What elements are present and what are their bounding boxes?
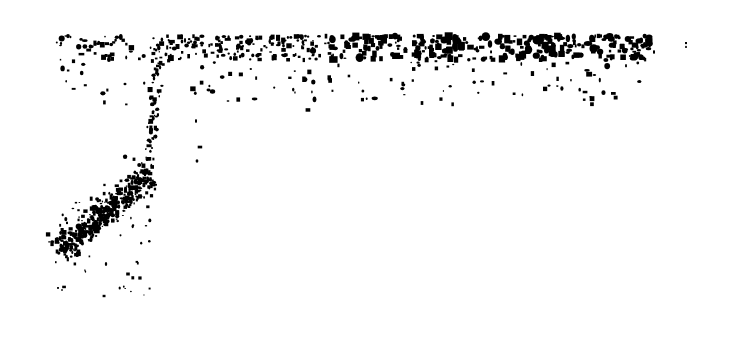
data-point [152, 82, 155, 84]
data-point [136, 199, 138, 202]
data-point [108, 192, 110, 195]
data-point [64, 217, 67, 221]
data-point [144, 172, 146, 176]
data-point [520, 62, 522, 66]
data-point [435, 60, 438, 62]
data-point [84, 84, 87, 86]
data-point [115, 196, 118, 199]
data-point [61, 289, 63, 290]
data-point [87, 218, 89, 221]
data-point [180, 34, 182, 38]
data-point [60, 243, 63, 246]
data-point [116, 219, 118, 220]
data-point [59, 224, 61, 227]
data-point [221, 54, 226, 57]
data-point [523, 35, 527, 39]
data-point [117, 191, 121, 195]
data-point [85, 228, 87, 230]
data-point [129, 190, 131, 193]
data-point [90, 197, 93, 201]
data-point [599, 34, 602, 37]
data-point [544, 47, 549, 53]
data-point [125, 55, 127, 59]
data-point [62, 249, 68, 252]
data-point [102, 200, 103, 202]
data-point [94, 205, 97, 209]
data-point [145, 149, 146, 150]
data-point [166, 45, 168, 49]
data-point [283, 53, 287, 57]
data-point [630, 48, 633, 51]
data-point [271, 43, 274, 46]
data-point [92, 222, 94, 225]
data-point [81, 215, 85, 218]
data-point [60, 247, 63, 250]
data-point [583, 99, 586, 101]
data-point [483, 57, 487, 60]
data-point [155, 71, 158, 75]
data-point [294, 92, 295, 94]
data-point [306, 108, 311, 112]
data-point [556, 85, 559, 87]
data-point [138, 190, 140, 192]
data-point [233, 56, 238, 60]
data-point [531, 71, 534, 76]
data-point [97, 230, 99, 231]
scatter-plot-canvas [0, 0, 732, 348]
data-point [237, 44, 240, 47]
data-point [202, 49, 206, 53]
data-point [503, 53, 508, 58]
data-point [138, 276, 141, 279]
data-point [327, 42, 330, 45]
data-point [134, 171, 137, 174]
data-point [643, 34, 647, 39]
data-point [222, 35, 226, 38]
data-point [425, 58, 429, 63]
data-point [94, 52, 97, 55]
data-point [401, 83, 405, 86]
data-point [131, 276, 134, 279]
data-point [410, 62, 412, 63]
data-point [152, 52, 156, 55]
data-point [447, 66, 450, 68]
data-point [538, 44, 541, 47]
data-point [151, 59, 154, 63]
data-point [584, 69, 590, 72]
data-point [208, 44, 210, 47]
data-point [192, 34, 194, 38]
data-point [329, 56, 337, 63]
data-point [138, 58, 141, 61]
data-point [112, 199, 117, 204]
data-point [416, 56, 418, 58]
data-point [503, 72, 507, 74]
data-point [297, 39, 300, 42]
scatter-plot [0, 0, 732, 348]
data-point [148, 119, 153, 124]
data-point [239, 73, 243, 77]
data-point [372, 96, 378, 100]
data-point [152, 158, 154, 161]
data-point [352, 43, 358, 48]
data-point [129, 186, 132, 189]
data-point [378, 41, 384, 46]
data-point [255, 53, 259, 57]
data-point [56, 237, 58, 240]
data-point [618, 36, 621, 39]
data-point [603, 58, 608, 62]
data-point [294, 55, 296, 57]
data-point [229, 56, 232, 60]
data-point [78, 231, 82, 237]
data-point [159, 51, 160, 52]
data-point [159, 57, 162, 59]
data-point [59, 36, 65, 42]
data-point [644, 58, 646, 61]
data-point [96, 223, 97, 226]
data-point [191, 46, 193, 48]
data-point [337, 64, 339, 68]
data-point [637, 52, 641, 56]
data-point [210, 43, 212, 45]
data-point [155, 69, 158, 71]
data-point [213, 61, 216, 64]
data-point [575, 44, 577, 47]
data-point [449, 85, 452, 87]
